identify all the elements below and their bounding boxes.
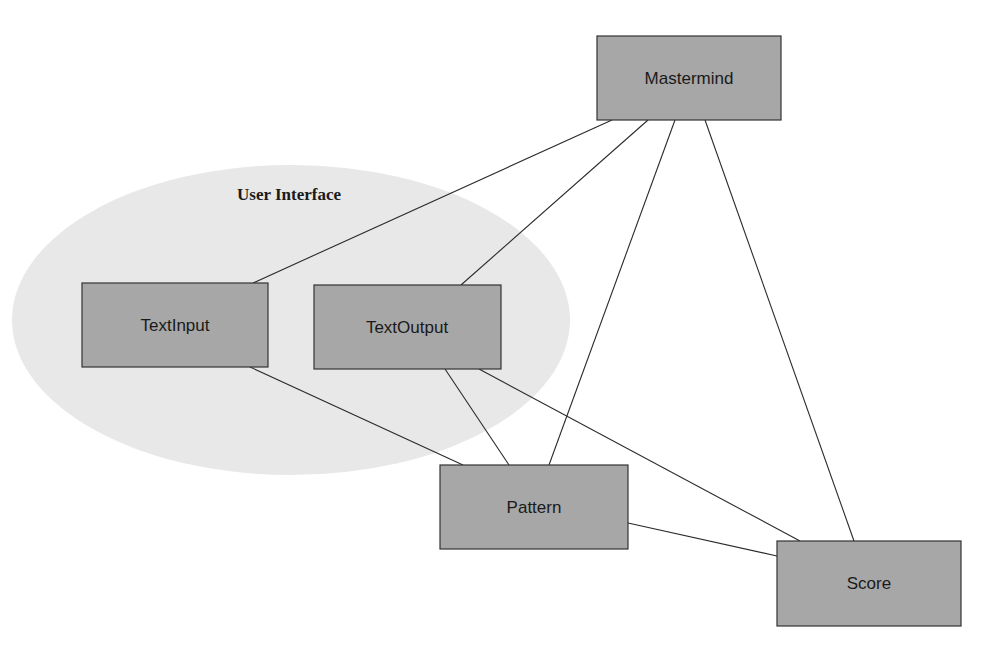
class-diagram: User Interface Mastermind TextInput Text… [0,0,987,650]
edge-mastermind-pattern [549,120,675,465]
edge-mastermind-textoutput [461,120,648,285]
edge-pattern-score [628,523,777,556]
node-label: Mastermind [645,69,734,88]
node-textoutput[interactable]: TextOutput [314,285,501,369]
node-label: Pattern [507,498,562,517]
node-score[interactable]: Score [777,541,961,626]
node-textinput[interactable]: TextInput [82,283,268,367]
edge-mastermind-score [705,120,854,541]
node-label: Score [847,574,891,593]
node-label: TextOutput [366,318,448,337]
node-mastermind[interactable]: Mastermind [597,36,781,120]
group-label: User Interface [237,185,341,204]
node-label: TextInput [141,316,210,335]
node-pattern[interactable]: Pattern [440,465,628,549]
